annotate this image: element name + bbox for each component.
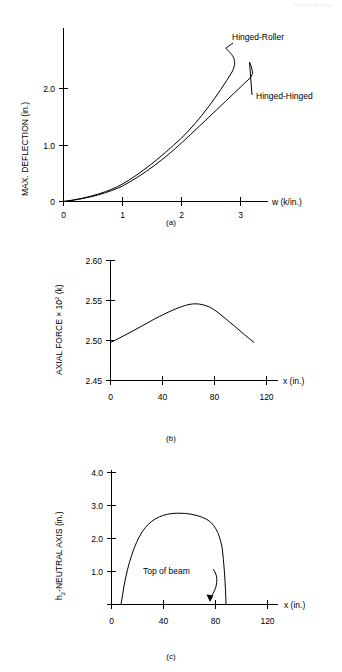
chart-a-series-hinged-hinged	[64, 62, 253, 202]
chart-b-xtick-label-1: 40	[158, 392, 168, 402]
chart-a-x-axis-label: w (k/in.)	[271, 197, 302, 207]
chart-c-annotation-arrow	[210, 569, 217, 598]
chart-b-xtick-label-0: 0	[108, 392, 113, 402]
chart-c-ytick-label-4: 4.0	[91, 468, 103, 478]
figure-a: 0 1.0 2.0 0 1 2 3 w (k/in.) MAX. DEFLECT…	[0, 0, 342, 230]
chart-b-y-axis-label-main: AXIAL FORCE × 10	[54, 300, 64, 375]
chart-b-ytick-label-3: 2.60	[85, 256, 102, 266]
chart-c-ytick-label-2: 2.0	[91, 534, 103, 544]
figure-a-caption: (a)	[0, 218, 342, 227]
chart-c-ytick-label-3: 3.0	[91, 501, 103, 511]
chart-b-canvas: 2.45 2.50 2.55 2.60 0 40 80 120 x (in.) …	[0, 230, 342, 452]
chart-c-xtick-label-2: 80	[211, 616, 221, 626]
chart-c-xtick-label-3: 120	[260, 616, 274, 626]
figure-b-caption: (b)	[0, 434, 342, 443]
chart-b-xtick-label-2: 80	[210, 392, 220, 402]
chart-b-ytick-label-2: 2.55	[85, 296, 102, 306]
chart-c-y-axis-label: h2-NEUTRAL AXIS (in.)	[54, 511, 66, 600]
chart-a-y-axis-label: MAX. DEFLECTION (in.)	[20, 102, 30, 196]
chart-a-ytick-label-0: 0	[50, 197, 55, 207]
figure-c-caption: (c)	[0, 652, 342, 661]
chart-c-canvas: 1.0 2.0 3.0 4.0 0 40 80 120 x (in.) h2-N…	[0, 452, 342, 672]
chart-a-label-hinged-roller: Hinged-Roller	[232, 32, 284, 42]
chart-c-series-neutral-axis	[121, 513, 226, 604]
chart-a-ytick-label-2: 2.0	[43, 84, 55, 94]
chart-c-xtick-label-0: 0	[109, 616, 114, 626]
chart-a-label-hinged-hinged: Hinged-Hinged	[256, 91, 313, 101]
chart-b-ytick-label-0: 2.45	[85, 376, 102, 386]
chart-c-xtick-label-1: 40	[159, 616, 169, 626]
figure-page: Nonlinear Anal. 0 1.0 2.0 0 1 2 3 w (	[0, 0, 342, 672]
chart-c-x-axis-label: x (in.)	[284, 600, 305, 610]
chart-b-y-axis-label: AXIAL FORCE × 102 (k)	[54, 284, 65, 375]
chart-c-ytick-label-1: 1.0	[91, 567, 103, 577]
chart-b-x-axis-label: x (in.)	[283, 376, 304, 386]
chart-b-series-axial-force	[111, 304, 255, 343]
chart-a-ytick-label-1: 1.0	[43, 141, 55, 151]
chart-a-svg: 0 1.0 2.0 0 1 2 3 w (k/in.) MAX. DEFLECT…	[0, 0, 342, 230]
chart-b-xtick-label-3: 120	[259, 392, 273, 402]
chart-a-leader-hinged-roller	[226, 43, 233, 48]
chart-c-y-axis-label-tail: -NEUTRAL AXIS (in.)	[54, 511, 64, 592]
chart-c-annotation-arrowhead	[207, 595, 214, 603]
chart-a-series-hinged-roller	[64, 48, 235, 202]
chart-c-annotation-label: Top of beam	[143, 566, 190, 576]
chart-b-ytick-label-1: 2.50	[85, 336, 102, 346]
chart-b-y-axis-label-tail: (k)	[54, 284, 64, 296]
